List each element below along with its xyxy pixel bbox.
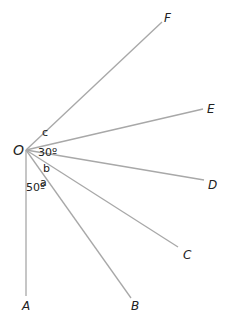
point-label-C: C [183, 248, 192, 262]
point-labels-group: FEDCBA [21, 11, 217, 313]
angle-label: 30º [38, 146, 57, 159]
point-label-D: D [208, 178, 217, 192]
point-label-B: B [131, 299, 139, 313]
diagram-svg: FEDCBA c30ºba50º O [0, 0, 229, 325]
angle-label: b [43, 162, 50, 175]
point-label-F: F [164, 11, 172, 25]
origin-label-O: O [13, 142, 24, 158]
ray-OE [26, 109, 203, 150]
rays-group [26, 22, 204, 298]
angle-label: c [42, 126, 48, 139]
point-label-A: A [21, 299, 30, 313]
ray-OB [26, 150, 131, 298]
angle-label: 50º [26, 181, 45, 194]
angle-diagram: FEDCBA c30ºba50º O [0, 0, 229, 325]
point-label-E: E [207, 102, 215, 116]
